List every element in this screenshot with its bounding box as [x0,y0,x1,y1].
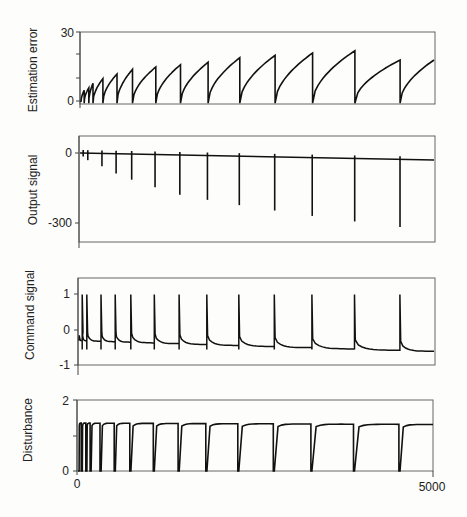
figure: 30 0 Estimation error 0 -300 Output sign… [0,0,467,517]
panel-disturbance: 2 0 0 5000 Disturbance [21,394,446,494]
ytick-1: 1 [63,287,70,301]
ytick-2: 2 [62,394,69,408]
panel-estimation-error: 30 0 Estimation error [26,26,435,112]
ytick-0: 0 [62,464,69,478]
command-signal-line [79,295,434,352]
ytick-0: 0 [63,323,70,337]
ytick-0: 0 [67,94,74,108]
ytick-30: 30 [61,26,75,40]
ylabel-command-signal: Command signal [23,270,37,360]
ylabel-output-signal: Output signal [26,155,40,226]
xtick-0: 0 [74,477,81,491]
disturbance-line [78,423,433,471]
panel-output-signal: 0 -300 Output signal [26,136,435,248]
panel-command-signal: 1 0 -1 Command signal [23,270,435,375]
output-signal-line [80,150,434,227]
ylabel-disturbance: Disturbance [21,398,35,462]
ylabel-estimation-error: Estimation error [26,28,40,113]
ytick-minus-1: -1 [59,358,70,372]
ytick-minus-300: -300 [48,216,72,230]
ytick-0: 0 [65,146,72,160]
xtick-5000: 5000 [419,480,446,494]
estimation-error-line [81,51,434,103]
